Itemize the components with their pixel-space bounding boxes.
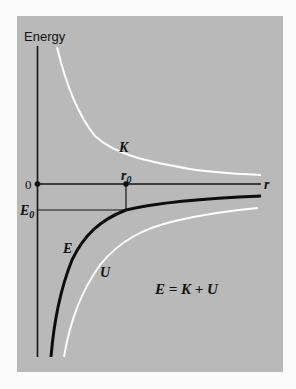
k-curve-label: K bbox=[118, 140, 130, 155]
e-curve-label: E bbox=[62, 241, 72, 256]
r-axis-label: r bbox=[264, 177, 270, 192]
origin-dot bbox=[35, 181, 41, 187]
e0-label-subscript: 0 bbox=[29, 209, 34, 220]
u-curve-label: U bbox=[100, 265, 111, 280]
energy-equation: E = K + U bbox=[154, 281, 219, 297]
energy-diagram: Energy r 0 r0 E0 K U E E = K + U bbox=[0, 0, 296, 389]
origin-label: 0 bbox=[25, 177, 32, 192]
energy-axis-label: Energy bbox=[24, 29, 66, 44]
r0-label-subscript: 0 bbox=[126, 174, 131, 185]
e0-label-main: E bbox=[19, 203, 29, 218]
